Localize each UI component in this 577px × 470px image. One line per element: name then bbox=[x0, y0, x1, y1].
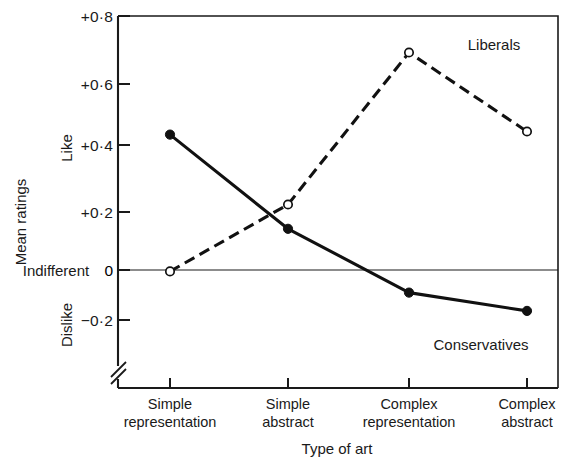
series-line-liberals bbox=[170, 53, 527, 272]
y-axis-title: Mean ratings bbox=[12, 179, 29, 266]
y-tick-label-0: +0·8 bbox=[81, 8, 113, 25]
series-annotation-liberals: Liberals bbox=[468, 36, 521, 53]
x-tick-label-0-line2: representation bbox=[124, 414, 217, 430]
x-tick-label-0-line1: Simple bbox=[148, 396, 192, 412]
y-axis-dislike-label: Dislike bbox=[58, 303, 75, 347]
series-markers-conservatives bbox=[165, 130, 531, 316]
x-axis-ticks bbox=[170, 378, 527, 388]
data-point-conservatives-1 bbox=[283, 224, 292, 233]
data-point-liberals-1 bbox=[284, 200, 292, 208]
data-point-liberals-3 bbox=[523, 127, 531, 135]
y-tick-label-2: +0·4 bbox=[81, 137, 113, 154]
mean-ratings-line-chart: +0·8 +0·6 +0·4 +0·2 0 −0·2 Indifferent L… bbox=[0, 0, 577, 470]
x-tick-label-2-line2: representation bbox=[363, 414, 456, 430]
x-tick-label-3-line1: Complex bbox=[498, 396, 556, 412]
series-line-conservatives bbox=[170, 135, 527, 311]
x-tick-label-1-line1: Simple bbox=[266, 396, 310, 412]
x-tick-label-2-line1: Complex bbox=[380, 396, 438, 412]
y-axis-indifferent-label: Indifferent bbox=[23, 262, 90, 279]
data-point-conservatives-3 bbox=[522, 306, 531, 315]
data-point-liberals-0 bbox=[166, 267, 174, 275]
y-tick-label-1: +0·6 bbox=[81, 76, 113, 93]
y-axis-ticks bbox=[118, 16, 130, 320]
series-annotation-conservatives: Conservatives bbox=[433, 336, 528, 353]
y-axis-like-label: Like bbox=[58, 134, 75, 162]
y-tick-label-5: −0·2 bbox=[81, 312, 113, 329]
chart-figure: +0·8 +0·6 +0·4 +0·2 0 −0·2 Indifferent L… bbox=[0, 0, 577, 470]
data-point-conservatives-2 bbox=[404, 288, 413, 297]
data-point-conservatives-0 bbox=[165, 130, 174, 139]
x-axis-title: Type of art bbox=[302, 440, 374, 457]
y-tick-label-4: 0 bbox=[104, 262, 113, 279]
y-tick-label-3: +0·2 bbox=[81, 204, 113, 221]
x-tick-label-1-line2: abstract bbox=[262, 414, 314, 430]
plot-frame-border bbox=[118, 16, 558, 388]
data-point-liberals-2 bbox=[405, 48, 413, 56]
x-tick-label-3-line2: abstract bbox=[501, 414, 553, 430]
